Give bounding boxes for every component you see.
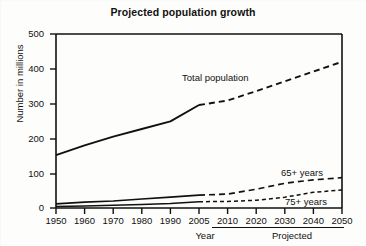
series-layer xyxy=(56,62,342,207)
series-line-total-population-actual xyxy=(56,105,199,155)
series-label-65-plus: 65+ years xyxy=(281,167,323,178)
x-tick-label-2050: 2050 xyxy=(325,216,359,226)
series-line-total-population-projected xyxy=(199,62,342,105)
x-axis-title: Year xyxy=(185,230,225,241)
y-tick-label-100: 100 xyxy=(4,169,44,179)
y-tick-label-300: 300 xyxy=(4,99,44,109)
y-tick-label-500: 500 xyxy=(4,29,44,39)
y-tick-label-400: 400 xyxy=(4,64,44,74)
plot-canvas xyxy=(0,0,366,246)
series-label-total-population: Total population xyxy=(182,72,249,83)
x-axis-ticks xyxy=(56,208,342,214)
projected-range-underline xyxy=(212,227,344,228)
series-label-75-plus: 75+ years xyxy=(285,196,327,207)
y-tick-label-200: 200 xyxy=(4,134,44,144)
y-axis-ticks xyxy=(50,34,56,208)
series-line-65-years-projected xyxy=(199,178,342,195)
projected-label: Projected xyxy=(262,230,322,241)
chart-screenshot: Projected population growth Number in mi… xyxy=(0,0,366,246)
y-tick-label-0: 0 xyxy=(4,203,44,213)
